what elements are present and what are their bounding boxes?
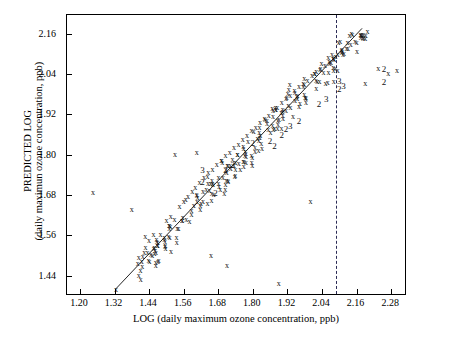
data-point-marker: x xyxy=(236,141,240,149)
data-point-marker: x xyxy=(334,53,338,61)
x-tick-label: 2.04 xyxy=(312,297,330,308)
data-point-marker: x xyxy=(143,233,147,241)
y-tick xyxy=(67,235,72,236)
data-point-marker: x xyxy=(209,252,213,260)
data-point-marker: x xyxy=(276,121,280,129)
data-point-marker: x xyxy=(220,157,224,165)
x-tick-label: 1.32 xyxy=(105,297,123,308)
data-point-marker: x xyxy=(163,242,167,250)
data-point-marker: x xyxy=(257,147,261,155)
data-point-marker: x xyxy=(252,128,256,136)
data-point-marker: x xyxy=(139,276,143,284)
data-point-marker: x xyxy=(154,259,158,267)
data-point-marker: x xyxy=(91,189,95,197)
x-axis-tick-labels: 1.201.321.441.561.681.801.922.042.162.28 xyxy=(66,297,406,311)
data-point-marker: x xyxy=(226,178,230,186)
data-point-marker: x xyxy=(337,39,341,47)
data-point-marker: x xyxy=(324,80,328,88)
x-tick xyxy=(391,289,392,294)
data-point-marker: x xyxy=(281,112,285,120)
data-point-marker: x xyxy=(206,173,210,181)
data-point-marker: x xyxy=(298,100,302,108)
data-point-marker: x xyxy=(223,186,227,194)
data-point-marker: x xyxy=(309,198,313,206)
data-point-marker: x xyxy=(331,64,335,72)
data-point-marker: x xyxy=(217,180,221,188)
data-point-marker: x xyxy=(332,78,336,86)
data-point-marker: x xyxy=(175,234,179,242)
data-point-marker: x xyxy=(287,86,291,94)
data-point-marker: x xyxy=(355,48,359,56)
data-point-marker: x xyxy=(395,67,399,75)
y-tick xyxy=(67,276,72,277)
scatter-plot-figure: xxxxxxxxxxxxxxxxxxxxxxxxxxxxxxxxxxxxxxxx… xyxy=(0,0,468,350)
data-point-marker: x xyxy=(286,102,290,110)
y-tick xyxy=(67,74,72,75)
data-point-count-label: 3 xyxy=(200,166,205,174)
y-tick xyxy=(67,114,72,115)
x-tick xyxy=(287,289,288,294)
y-axis-title: PREDICTED LOG (daily maximun ozone conce… xyxy=(22,26,44,276)
data-point-marker: x xyxy=(277,280,281,288)
x-tick xyxy=(253,289,254,294)
data-point-marker: x xyxy=(386,70,390,78)
data-point-count-label: 2 xyxy=(337,85,342,93)
data-point-count-label: 2 xyxy=(297,117,302,125)
x-tick xyxy=(322,289,323,294)
x-axis-title: LOG (daily maximum ozone concentration, … xyxy=(66,313,406,324)
data-point-marker: x xyxy=(349,30,353,38)
data-point-marker: x xyxy=(303,94,307,102)
data-point-marker: x xyxy=(328,60,332,68)
data-point-marker: x xyxy=(210,177,214,185)
x-tick xyxy=(218,289,219,294)
x-tick-label: 1.68 xyxy=(209,297,227,308)
x-tick-label: 1.80 xyxy=(243,297,261,308)
x-tick-label: 1.56 xyxy=(174,297,192,308)
y-tick xyxy=(67,195,72,196)
x-tick-label: 1.92 xyxy=(278,297,296,308)
data-point-marker: x xyxy=(345,39,349,47)
data-point-marker: x xyxy=(241,145,245,153)
data-point-marker: x xyxy=(363,80,367,88)
data-point-marker: x xyxy=(167,222,171,230)
data-point-marker: x xyxy=(302,81,306,89)
data-point-count-label: 2 xyxy=(382,78,387,86)
data-point-marker: x xyxy=(130,206,134,214)
data-point-marker: x xyxy=(236,151,240,159)
data-point-count-label: 2 xyxy=(230,161,235,169)
x-tick xyxy=(357,289,358,294)
data-point-marker: x xyxy=(318,66,322,74)
data-point-marker: x xyxy=(173,151,177,159)
x-tick xyxy=(115,289,116,294)
data-point-marker: x xyxy=(313,70,317,78)
y-tick xyxy=(67,34,72,35)
data-point-marker: x xyxy=(257,129,261,137)
data-point-count-label: 2 xyxy=(223,166,228,174)
data-point-marker: x xyxy=(184,196,188,204)
data-point-marker: x xyxy=(159,231,163,239)
data-point-marker: x xyxy=(238,166,242,174)
data-point-marker: x xyxy=(233,172,237,180)
y-axis-title-line1: PREDICTED LOG xyxy=(22,110,33,192)
data-point-marker: x xyxy=(192,202,196,210)
data-point-marker: x xyxy=(291,113,295,121)
data-point-marker: x xyxy=(146,257,150,265)
y-axis-title-line2: (daily maximun ozone concentration, ppb) xyxy=(33,26,44,276)
data-point-marker: x xyxy=(168,234,172,242)
data-point-marker: x xyxy=(225,262,229,270)
x-tick xyxy=(80,289,81,294)
data-point-count-label: 2 xyxy=(268,137,273,145)
data-point-count-label: 2 xyxy=(382,65,387,73)
data-point-count-label: 3 xyxy=(288,122,293,130)
data-point-marker: x xyxy=(140,263,144,271)
x-tick xyxy=(149,289,150,294)
data-point-marker: x xyxy=(195,149,199,157)
data-point-marker: x xyxy=(293,97,297,105)
data-point-marker: x xyxy=(215,161,219,169)
data-point-count-label: 2 xyxy=(213,189,218,197)
data-point-marker: x xyxy=(201,188,205,196)
data-point-count-label: 2 xyxy=(251,139,256,147)
data-point-count-label: 2 xyxy=(200,178,205,186)
data-point-marker: x xyxy=(246,138,250,146)
data-point-marker: x xyxy=(169,248,173,256)
